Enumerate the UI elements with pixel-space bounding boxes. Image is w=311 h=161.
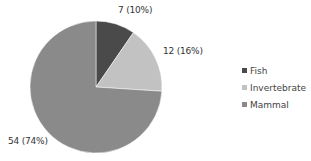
legend-item-fish: Fish <box>242 62 306 79</box>
data-label-mammal: 54 (74%) <box>8 136 48 146</box>
legend-item-mammal: Mammal <box>242 96 306 113</box>
legend-label: Invertebrate <box>250 83 306 93</box>
legend-swatch-fish <box>242 68 247 73</box>
legend-label: Mammal <box>250 100 289 110</box>
data-label-fish: 7 (10%) <box>118 5 152 15</box>
legend-label: Fish <box>250 66 267 76</box>
legend-swatch-mammal <box>242 102 247 107</box>
legend-swatch-invertebrate <box>242 85 247 90</box>
legend-item-invertebrate: Invertebrate <box>242 79 306 96</box>
legend: Fish Invertebrate Mammal <box>242 62 306 113</box>
data-label-invertebrate: 12 (16%) <box>163 46 203 56</box>
